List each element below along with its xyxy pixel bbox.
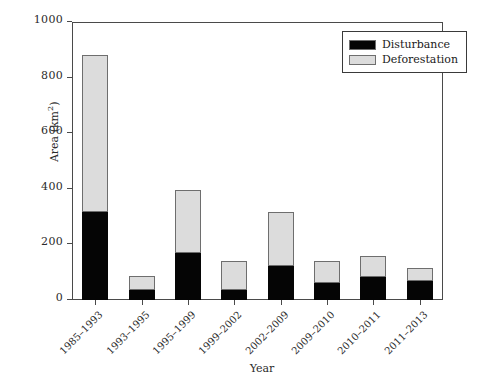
x-tick-mark xyxy=(420,300,421,305)
y-tick-label: 200 xyxy=(41,236,63,247)
x-tick-mark xyxy=(327,300,328,305)
y-tick-label: 1000 xyxy=(34,14,63,25)
bar-segment-deforestation[interactable] xyxy=(268,212,294,266)
legend-swatch xyxy=(349,40,376,50)
bar-segment-disturbance[interactable] xyxy=(407,281,433,300)
y-tick-mark xyxy=(67,77,72,78)
bar-segment-disturbance[interactable] xyxy=(360,277,386,300)
bar-group[interactable] xyxy=(268,22,294,300)
y-tick-mark xyxy=(67,188,72,189)
x-axis-title: Year xyxy=(0,362,482,375)
y-tick-label: 0 xyxy=(56,292,63,303)
legend-label: Deforestation xyxy=(382,54,458,65)
y-tick-mark xyxy=(67,243,72,244)
x-tick-mark xyxy=(281,300,282,305)
bar-segment-disturbance[interactable] xyxy=(175,253,201,300)
chart-legend: DisturbanceDeforestation xyxy=(342,31,467,73)
bar-group[interactable] xyxy=(221,22,247,300)
y-axis-title-suffix: ) xyxy=(48,102,61,106)
bar-segment-disturbance[interactable] xyxy=(82,212,108,300)
x-tick-label: 2010–2011 xyxy=(334,309,383,358)
bar-segment-disturbance[interactable] xyxy=(314,283,340,300)
x-tick-mark xyxy=(95,300,96,305)
y-axis-title: Area (km2) xyxy=(45,72,61,192)
bar-segment-deforestation[interactable] xyxy=(175,190,201,253)
x-tick-mark xyxy=(373,300,374,305)
legend-item[interactable]: Disturbance xyxy=(349,37,458,52)
y-axis-title-text: Area (km xyxy=(48,111,61,162)
y-tick-mark xyxy=(67,21,72,22)
y-axis-title-exponent: 2 xyxy=(46,106,55,111)
legend-item[interactable]: Deforestation xyxy=(349,52,458,67)
x-tick-label: 1993–1995 xyxy=(103,309,152,358)
bar-group[interactable] xyxy=(175,22,201,300)
x-tick-mark xyxy=(234,300,235,305)
y-tick-mark xyxy=(67,299,72,300)
y-tick-mark xyxy=(67,132,72,133)
x-tick-label: 1995–1999 xyxy=(149,309,198,358)
legend-swatch xyxy=(349,55,376,65)
x-tick-mark xyxy=(142,300,143,305)
bar-segment-disturbance[interactable] xyxy=(268,266,294,300)
legend-label: Disturbance xyxy=(382,39,450,50)
bar-segment-deforestation[interactable] xyxy=(407,268,433,281)
bar-segment-deforestation[interactable] xyxy=(360,256,386,277)
x-tick-label: 2011–2013 xyxy=(381,309,430,358)
bar-segment-deforestation[interactable] xyxy=(314,261,340,283)
chart-figure: 02004006008001000 1985–19931993–19951995… xyxy=(0,0,482,390)
bar-segment-deforestation[interactable] xyxy=(82,55,108,212)
bar-group[interactable] xyxy=(82,22,108,300)
bar-segment-deforestation[interactable] xyxy=(129,276,155,290)
x-tick-mark xyxy=(188,300,189,305)
bar-segment-disturbance[interactable] xyxy=(221,290,247,300)
x-tick-label: 2002–2009 xyxy=(242,309,291,358)
x-tick-label: 1999–2002 xyxy=(195,309,244,358)
bar-segment-disturbance[interactable] xyxy=(129,290,155,300)
bar-group[interactable] xyxy=(314,22,340,300)
bar-group[interactable] xyxy=(129,22,155,300)
x-tick-label: 2009–2010 xyxy=(288,309,337,358)
bar-segment-deforestation[interactable] xyxy=(221,261,247,290)
x-tick-label: 1985–1993 xyxy=(56,309,105,358)
